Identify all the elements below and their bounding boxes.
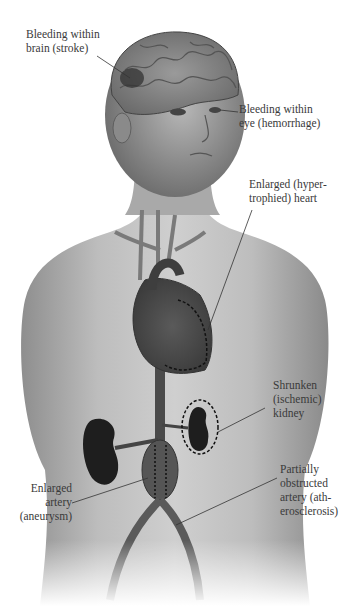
- label-eye-hemorrhage: Bleeding within eye (hemorrhage): [239, 102, 320, 130]
- label-brain-stroke: Bleeding within brain (stroke): [26, 27, 100, 55]
- aneurysm: [142, 440, 178, 500]
- brain-bleed: [120, 68, 144, 88]
- label-shrunken-kidney: Shrunken (ischemic) kidney: [273, 378, 322, 420]
- label-aneurysm: Enlarged artery (aneurysm): [18, 481, 72, 523]
- label-atherosclerosis: Partially obstructed artery (ath- eroscl…: [280, 462, 338, 518]
- ear: [113, 113, 131, 143]
- eye-right: [209, 107, 221, 113]
- kidney-right: [188, 407, 208, 451]
- label-enlarged-heart: Enlarged (hyper- trophied) heart: [249, 177, 327, 205]
- eye-left: [170, 109, 186, 116]
